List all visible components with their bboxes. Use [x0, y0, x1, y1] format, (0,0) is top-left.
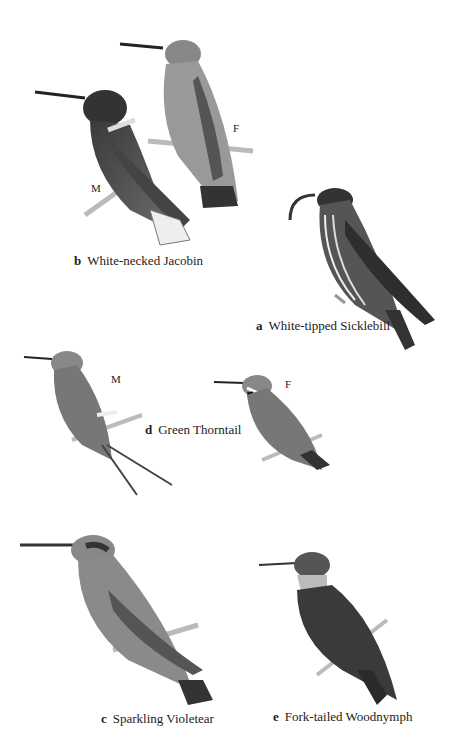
- illustration-plate: M F bWhite-necked Jacobin aWhite-tipped …: [0, 0, 452, 743]
- caption-sparkling-violetear: cSparkling Violetear: [101, 711, 214, 727]
- violetear-illustration: [18, 530, 213, 710]
- thorntail-male-sex-label: M: [111, 373, 121, 385]
- woodnymph-illustration: [257, 550, 412, 710]
- jacobin-female-sex-label: F: [233, 122, 239, 134]
- caption-green-thorntail: dGreen Thorntail: [145, 422, 241, 438]
- caption-fork-tailed-woodnymph: eFork-tailed Woodnymph: [273, 709, 412, 725]
- caption-white-tipped-sicklebill: aWhite-tipped Sicklebill: [256, 318, 390, 334]
- thorntail-female-sex-label: F: [285, 378, 291, 390]
- jacobin-male-sex-label: M: [91, 182, 101, 194]
- caption-white-necked-jacobin: bWhite-necked Jacobin: [74, 253, 203, 269]
